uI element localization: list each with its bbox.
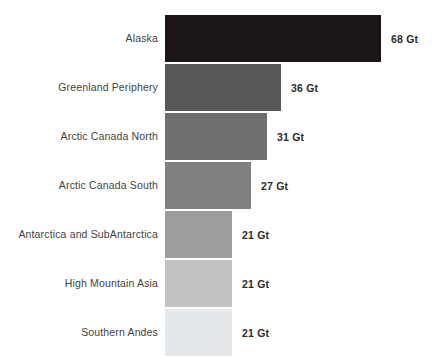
bar-value-label: 31 Gt: [277, 113, 304, 160]
bar-row: Antarctica and SubAntarctica21 Gt: [0, 211, 433, 258]
bar-row: Southern Andes21 Gt: [0, 309, 433, 356]
bar-category-label: Alaska: [0, 15, 158, 62]
bar-track: 31 Gt: [165, 113, 433, 160]
bar-value-label: 36 Gt: [291, 64, 318, 111]
bar-track: 21 Gt: [165, 211, 433, 258]
bar-row: Arctic Canada South27 Gt: [0, 162, 433, 209]
chart-title-cropped: [70, 0, 290, 2]
bar-track: 36 Gt: [165, 64, 433, 111]
bar-category-label: Arctic Canada North: [0, 113, 158, 160]
bar: [165, 162, 251, 209]
bar-value-label: 27 Gt: [261, 162, 288, 209]
bar-rows: Alaska68 GtGreenland Periphery36 GtArcti…: [0, 15, 433, 358]
bar-row: Arctic Canada North31 Gt: [0, 113, 433, 160]
bar-value-label: 21 Gt: [242, 260, 269, 307]
bar-value-label: 68 Gt: [391, 15, 418, 62]
bar: [165, 260, 232, 307]
bar-chart: Alaska68 GtGreenland Periphery36 GtArcti…: [0, 0, 433, 358]
bar-value-label: 21 Gt: [242, 309, 269, 356]
bar-row: Greenland Periphery36 Gt: [0, 64, 433, 111]
bar-row: Alaska68 Gt: [0, 15, 433, 62]
bar-track: 21 Gt: [165, 309, 433, 356]
bar-category-label: Arctic Canada South: [0, 162, 158, 209]
bar: [165, 113, 267, 160]
bar-category-label: Antarctica and SubAntarctica: [0, 211, 158, 258]
bar-track: 68 Gt: [165, 15, 433, 62]
bar: [165, 15, 381, 62]
bar-category-label: High Mountain Asia: [0, 260, 158, 307]
bar-track: 27 Gt: [165, 162, 433, 209]
bar: [165, 64, 281, 111]
bar-track: 21 Gt: [165, 260, 433, 307]
bar-category-label: Southern Andes: [0, 309, 158, 356]
bar: [165, 211, 232, 258]
bar-value-label: 21 Gt: [242, 211, 269, 258]
bar-row: High Mountain Asia21 Gt: [0, 260, 433, 307]
bar-category-label: Greenland Periphery: [0, 64, 158, 111]
bar: [165, 309, 232, 356]
